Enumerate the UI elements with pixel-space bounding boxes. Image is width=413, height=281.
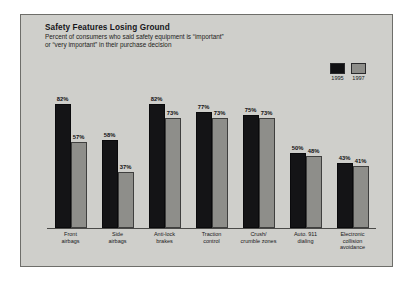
bar-rect xyxy=(71,142,87,228)
bar-value-label: 82% xyxy=(57,96,69,103)
bar-1997: 73% xyxy=(212,67,228,228)
bar-value-label: 37% xyxy=(120,164,132,171)
category-label: Frontairbags xyxy=(47,231,94,251)
bar-value-label: 73% xyxy=(214,110,226,117)
bar-value-label: 75% xyxy=(245,107,257,114)
bar-1995: 58% xyxy=(102,67,118,228)
bar-1995: 77% xyxy=(196,67,212,228)
bar-rect xyxy=(165,118,181,228)
bar-group: 82%57% xyxy=(47,67,94,228)
bar-1997: 37% xyxy=(118,67,134,228)
bar-1995: 82% xyxy=(55,67,71,228)
bar-rect xyxy=(149,104,165,228)
bar-groups: 82%57%58%37%82%73%77%73%75%73%50%48%43%4… xyxy=(47,67,376,228)
category-label: Sideairbags xyxy=(94,231,141,251)
bar-value-label: 48% xyxy=(308,148,320,155)
bar-group: 82%73% xyxy=(141,67,188,228)
bar-rect xyxy=(212,118,228,228)
bar-1997: 41% xyxy=(353,67,369,228)
chart-subtitle-line-2: or “very important” in their purchase de… xyxy=(45,41,345,49)
bar-value-label: 43% xyxy=(339,155,351,162)
bar-rect xyxy=(55,104,71,228)
bar-1997: 73% xyxy=(165,67,181,228)
bar-1995: 82% xyxy=(149,67,165,228)
title-block: Safety Features Losing Ground Percent of… xyxy=(45,23,345,49)
chart-panel: Safety Features Losing Ground Percent of… xyxy=(20,14,393,267)
bar-rect xyxy=(259,118,275,228)
bar-group: 58%37% xyxy=(94,67,141,228)
category-label: Electroniccollisionavoidance xyxy=(329,231,376,251)
bar-rect xyxy=(306,156,322,229)
category-axis: FrontairbagsSideairbagsAnti-lockbrakesTr… xyxy=(47,231,376,251)
bar-1995: 75% xyxy=(243,67,259,228)
bar-group: 50%48% xyxy=(282,67,329,228)
plot-container: 82%57%58%37%82%73%77%73%75%73%50%48%43%4… xyxy=(47,67,376,252)
bar-rect xyxy=(118,172,134,228)
bar-value-label: 77% xyxy=(198,104,210,111)
bar-rect xyxy=(243,115,259,228)
category-label: Auto. 911dialing xyxy=(282,231,329,251)
category-label: Tractioncontrol xyxy=(188,231,235,251)
bar-rect xyxy=(337,163,353,228)
bar-1997: 48% xyxy=(306,67,322,228)
bar-group: 75%73% xyxy=(235,67,282,228)
bar-rect xyxy=(102,140,118,228)
bar-rect xyxy=(353,166,369,228)
bar-1995: 43% xyxy=(337,67,353,228)
bar-1997: 57% xyxy=(71,67,87,228)
bar-value-label: 50% xyxy=(292,145,304,152)
bar-rect xyxy=(290,153,306,229)
bar-value-label: 57% xyxy=(73,134,85,141)
category-label: Anti-lockbrakes xyxy=(141,231,188,251)
bar-value-label: 82% xyxy=(151,96,163,103)
bar-group: 43%41% xyxy=(329,67,376,228)
bar-1997: 73% xyxy=(259,67,275,228)
bar-value-label: 73% xyxy=(167,110,179,117)
category-label: Crush/crumble zones xyxy=(235,231,282,251)
bar-value-label: 41% xyxy=(355,158,367,165)
bar-rect xyxy=(196,112,212,228)
plot-area: 82%57%58%37%82%73%77%73%75%73%50%48%43%4… xyxy=(47,67,376,229)
bar-group: 77%73% xyxy=(188,67,235,228)
bar-1995: 50% xyxy=(290,67,306,228)
chart-title: Safety Features Losing Ground xyxy=(45,23,345,33)
bar-value-label: 58% xyxy=(104,132,116,139)
chart-subtitle-line-1: Percent of consumers who said safety equ… xyxy=(45,33,345,41)
bar-value-label: 73% xyxy=(261,110,273,117)
